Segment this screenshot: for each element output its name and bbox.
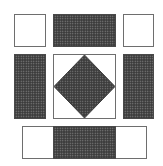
center-diamond-icon — [54, 55, 115, 118]
middle-left-bar — [14, 54, 46, 119]
middle-right-bar — [123, 54, 154, 119]
top-center-bar — [53, 14, 116, 47]
top-right-square — [123, 14, 154, 47]
top-left-square — [14, 14, 46, 47]
bottom-strip-center — [53, 126, 116, 159]
quilt-block-diagram — [0, 0, 163, 166]
center-square — [53, 54, 116, 119]
